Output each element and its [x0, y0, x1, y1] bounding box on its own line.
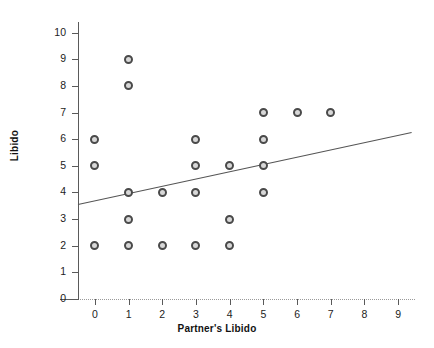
data-point [191, 188, 200, 197]
y-tick-mark [72, 33, 79, 34]
y-tick-mark [72, 166, 79, 167]
y-tick-mark [72, 139, 79, 140]
data-point [225, 215, 234, 224]
data-point [191, 135, 200, 144]
data-point [259, 188, 268, 197]
x-tick-label: 0 [80, 308, 110, 320]
data-point [124, 215, 133, 224]
y-tick-mark [72, 299, 79, 300]
data-point [259, 108, 268, 117]
y-axis-title: Libido [9, 130, 20, 161]
x-axis-title: Partner's Libido [0, 323, 434, 334]
x-tick-label: 2 [147, 308, 177, 320]
data-point [158, 241, 167, 250]
data-point [259, 161, 268, 170]
x-tick-mark [95, 299, 96, 305]
x-tick-label: 5 [248, 308, 278, 320]
data-point [124, 81, 133, 90]
y-tick-label: 3 [26, 212, 66, 224]
x-tick-label: 3 [181, 308, 211, 320]
y-tick-mark [72, 219, 79, 220]
data-point [124, 188, 133, 197]
y-tick-label: 1 [26, 265, 66, 277]
data-point [90, 241, 99, 250]
y-tick-mark [72, 272, 79, 273]
data-point [293, 108, 302, 117]
regression-line-path [78, 133, 412, 205]
data-point [158, 188, 167, 197]
y-tick-label: 6 [26, 132, 66, 144]
y-tick-label: 8 [26, 79, 66, 91]
y-tick-mark [72, 113, 79, 114]
x-tick-label: 6 [282, 308, 312, 320]
x-tick-mark [364, 299, 365, 305]
y-tick-label: 7 [26, 106, 66, 118]
data-point [191, 241, 200, 250]
y-tick-label: 5 [26, 159, 66, 171]
y-tick-label: 0 [26, 292, 66, 304]
data-point [225, 161, 234, 170]
x-tick-mark [230, 299, 231, 305]
data-point [90, 135, 99, 144]
y-tick-mark [72, 59, 79, 60]
x-tick-mark [196, 299, 197, 305]
data-point [124, 241, 133, 250]
y-tick-mark [72, 86, 79, 87]
x-tick-mark [162, 299, 163, 305]
x-tick-label: 7 [316, 308, 346, 320]
data-point [191, 161, 200, 170]
y-tick-label: 9 [26, 52, 66, 64]
x-tick-mark [263, 299, 264, 305]
x-tick-label: 9 [383, 308, 413, 320]
y-tick-label: 2 [26, 239, 66, 251]
data-point [225, 241, 234, 250]
x-tick-label: 4 [215, 308, 245, 320]
x-tick-mark [297, 299, 298, 305]
x-tick-label: 8 [349, 308, 379, 320]
scatter-plot-figure: 012345678910 0123456789 Partner's Libido… [0, 0, 434, 348]
y-tick-label: 10 [26, 26, 66, 38]
y-tick-mark [72, 246, 79, 247]
x-tick-label: 1 [114, 308, 144, 320]
y-tick-label: 4 [26, 185, 66, 197]
x-tick-mark [129, 299, 130, 305]
data-point [326, 108, 335, 117]
y-tick-mark [72, 192, 79, 193]
data-point [90, 161, 99, 170]
data-point [124, 55, 133, 64]
data-point [259, 135, 268, 144]
x-tick-mark [398, 299, 399, 305]
y-axis-line [78, 22, 79, 300]
x-tick-mark [331, 299, 332, 305]
